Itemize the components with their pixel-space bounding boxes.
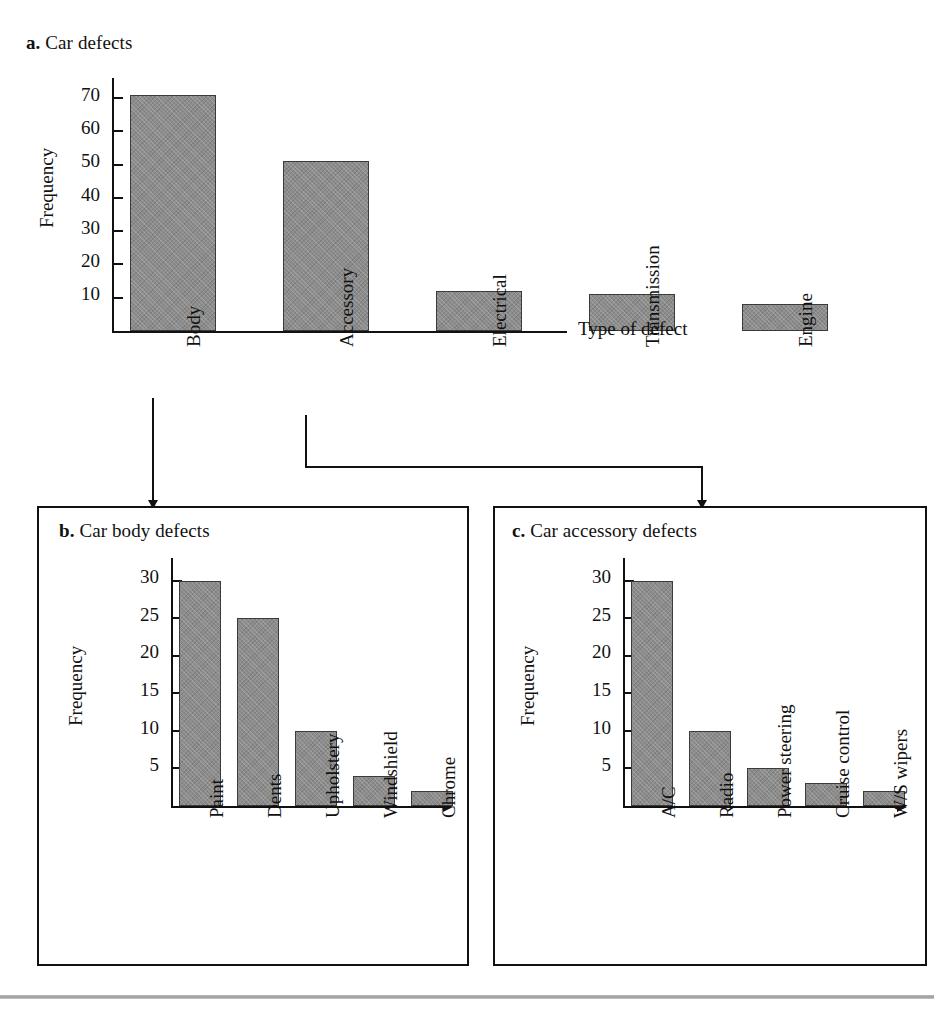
figure-page: a. Car defects 10203040506070 Frequency … [0,0,934,1013]
chart-a-category-label: Accessory [336,268,358,347]
chart-a-y-tick-label: 20 [54,250,100,272]
panel-car-accessory-defects: c. Car accessory defects 51015202530 Fre… [493,506,927,966]
panel-b-title: b. Car body defects [59,520,210,542]
chart-c-category-label: Power steering [774,705,796,818]
chart-c-y-tick-label: 5 [565,754,611,776]
chart-c-category-label: Cruise control [832,710,854,818]
chart-b-y-tick-label: 20 [113,641,159,663]
chart-c-y-tick-label: 20 [565,641,611,663]
chart-c-plot-area: 51015202530 [623,558,913,808]
footer-rule [0,995,934,999]
panel-c-marker: c. [512,520,525,541]
chart-a-y-tick-label: 30 [54,217,100,239]
chart-a-y-tick-label: 70 [54,84,100,106]
chart-c-category-label: W/S wipers [890,729,912,818]
chart-a-category-label: Transmission [642,245,664,347]
chart-a-y-tick [114,130,123,132]
chart-a-category-label: Electrical [489,274,511,347]
panel-a-title-text: Car defects [45,32,132,53]
chart-a-bar [130,95,216,331]
chart-b-category-label: Chrome [438,757,460,818]
chart-c-bar [631,581,673,806]
chart-a-category-label: Engine [795,293,817,347]
chart-b-y-tick-label: 10 [113,717,159,739]
chart-b-y-axis [171,558,173,808]
chart-a-x-axis-label: Type of defect [578,318,687,340]
chart-b-plot-area: 51015202530 [171,558,459,808]
chart-c-y-tick-label: 25 [565,604,611,626]
panel-car-defects: a. Car defects 10203040506070 Frequency … [0,0,934,470]
chart-a-y-tick [114,263,123,265]
chart-b-y-axis-label: Frequency [65,646,87,726]
chart-b-y-tick-label: 5 [113,754,159,776]
chart-c-y-tick-label: 30 [565,566,611,588]
chart-a-y-tick [114,164,123,166]
panel-car-body-defects: b. Car body defects 51015202530 Frequenc… [37,506,469,966]
chart-b-category-label: Dents [264,774,286,818]
chart-c-y-axis [623,558,625,808]
chart-a-y-tick-label: 50 [54,150,100,172]
chart-b-category-label: Windshield [380,731,402,818]
chart-c-category-label: A/C [658,786,680,818]
chart-c-category-label: Radio [716,773,738,818]
chart-a-y-axis-label: Frequency [36,148,58,228]
chart-b-y-tick-label: 25 [113,604,159,626]
chart-a-y-tick [114,230,123,232]
chart-c-y-axis-label: Frequency [517,646,539,726]
panel-b-marker: b. [59,520,75,541]
chart-a-y-tick [114,297,123,299]
panel-c-title: c. Car accessory defects [512,520,697,542]
panel-a-title: a. Car defects [26,32,132,54]
panel-c-title-text: Car accessory defects [530,520,697,541]
chart-c-y-tick-label: 15 [565,679,611,701]
chart-b-y-tick-label: 30 [113,566,159,588]
chart-b-bar [179,581,221,806]
chart-a-y-tick [114,97,123,99]
panel-b-title-text: Car body defects [79,520,209,541]
chart-a-category-label: Body [183,306,205,347]
chart-b-category-label: Upholstery [322,734,344,818]
chart-a-y-axis [112,78,114,333]
chart-a-y-tick [114,197,123,199]
chart-b-category-label: Paint [206,779,228,818]
chart-a-y-tick-label: 60 [54,117,100,139]
chart-a-y-tick-label: 40 [54,184,100,206]
chart-b-y-tick-label: 15 [113,679,159,701]
chart-a-y-tick-label: 10 [54,283,100,305]
chart-c-y-tick-label: 10 [565,717,611,739]
panel-a-marker: a. [26,32,40,53]
